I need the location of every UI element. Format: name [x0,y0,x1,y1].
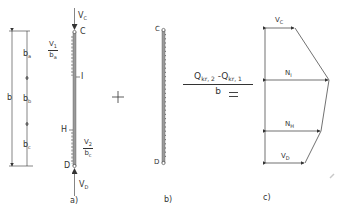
axial-label-vc: VC [275,17,283,25]
equals-sign [229,92,238,97]
distributed-load-v2-bc: V2 bc [83,139,93,158]
point-label-d-b: D [154,159,159,166]
force-label-vd: VD [79,181,88,190]
column-a [69,8,80,196]
axial-label-ni: NI [285,70,292,78]
point-label-d: D [64,162,70,170]
caption-a: a) [70,197,78,205]
axial-label-vd: VD [281,153,290,161]
dimension-label-ba: ba [23,50,31,59]
caption-c: c) [263,194,271,202]
column-b [162,28,166,164]
axial-label-nh: NH [285,121,294,129]
pencil-mark [330,174,334,178]
distributed-load-v1-ba: V1 ba [48,41,58,60]
caption-b: b) [164,196,172,204]
point-label-i: I [81,73,83,81]
force-label-vc: VC [78,12,87,21]
point-label-c-b: C [155,26,160,33]
shear-difference-formula: Qkr, 2 -Qkr, 1 b [183,72,253,96]
axial-force-diagram [265,28,329,163]
diagram-canvas [0,0,353,218]
point-label-c: C [80,28,86,36]
point-label-h: H [61,126,67,134]
dimension-label-bc: bc [23,141,31,150]
dimension-label-bb: bb [23,95,31,104]
dimension-label-b: b [7,94,12,102]
plus-sign [112,91,124,103]
